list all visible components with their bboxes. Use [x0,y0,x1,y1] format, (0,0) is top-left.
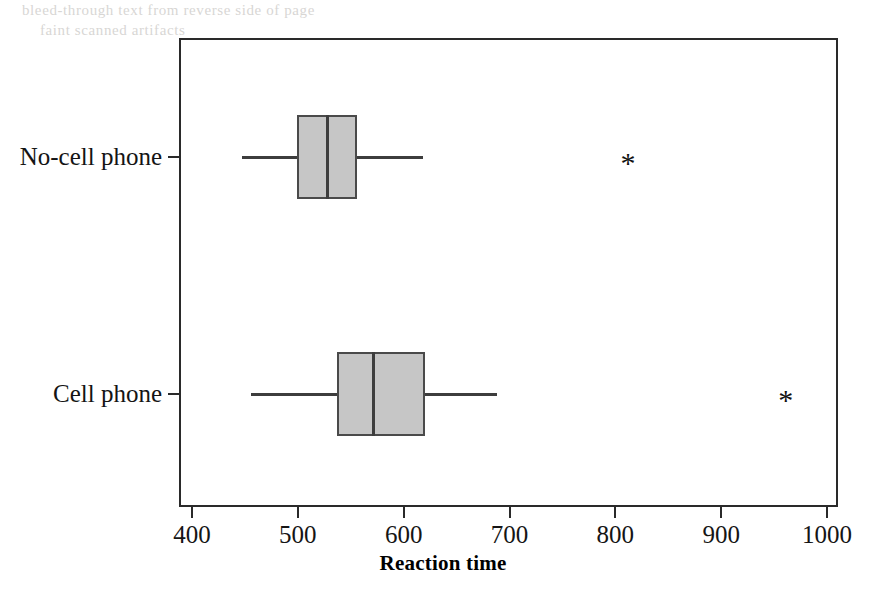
outlier-marker-1-0: * [778,385,793,415]
x-axis-tick-800 [614,507,616,518]
x-axis-tick-label-800: 800 [597,521,635,549]
x-axis-tick-label-1000: 1000 [802,521,852,549]
x-axis-tick-700 [509,507,511,518]
whisker-low-0 [242,156,297,159]
x-axis-tick-label-400: 400 [173,521,211,549]
plot-frame [179,38,838,507]
x-axis-tick-label-600: 600 [385,521,423,549]
x-axis-tick-600 [403,507,405,518]
x-axis-tick-900 [720,507,722,518]
x-axis-tick-label-700: 700 [491,521,529,549]
x-axis-tick-500 [297,507,299,518]
x-axis-title: Reaction time [0,551,886,576]
x-axis-tick-1000 [826,507,828,518]
x-axis-tick-label-900: 900 [702,521,740,549]
y-axis-tick-1 [168,393,180,395]
y-axis-tick-0 [168,156,180,158]
whisker-low-1 [251,393,337,396]
x-axis-tick-400 [191,507,193,518]
median-line-0 [326,115,329,199]
y-axis-category-label-1: Cell phone [53,380,162,408]
x-axis-tick-label-500: 500 [279,521,317,549]
median-line-1 [372,352,375,436]
whisker-high-1 [425,393,497,396]
y-axis-category-label-0: No-cell phone [20,143,162,171]
iqr-box-1 [337,352,425,436]
whisker-high-0 [357,156,423,159]
boxplot-chart: 4005006007008009001000No-cell phoneCell … [0,0,886,605]
outlier-marker-0-0: * [621,148,636,178]
